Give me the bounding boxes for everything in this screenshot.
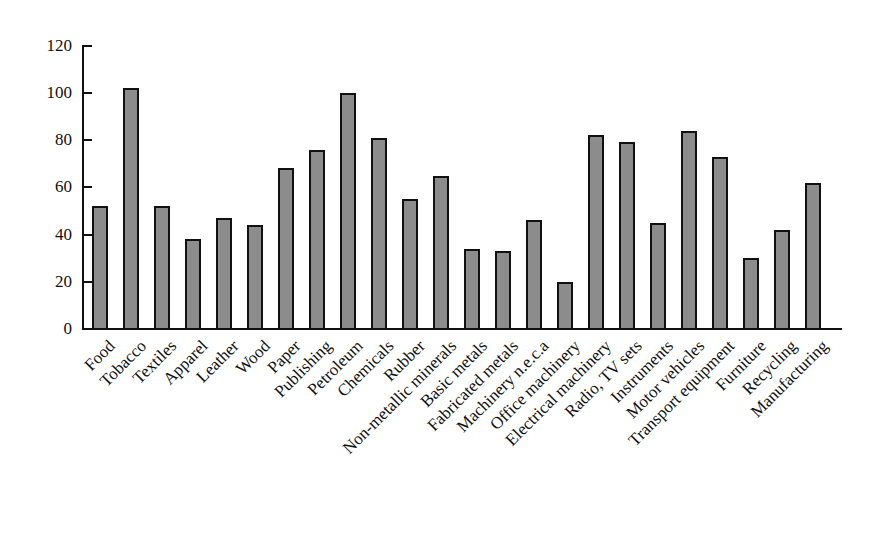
bar-tobacco	[123, 88, 139, 330]
bar-food	[92, 206, 108, 330]
bar-petroleum	[340, 93, 356, 330]
bar-leather	[216, 218, 232, 330]
bar-chart: 020406080100120 FoodTobaccoTextilesAppar…	[0, 0, 879, 554]
y-tick-mark	[82, 45, 92, 47]
y-tick-mark	[82, 328, 92, 330]
bar-furniture	[743, 258, 759, 330]
bar-basic-metals	[464, 249, 480, 330]
bar-office-machinery	[557, 282, 573, 330]
y-tick-label: 40	[32, 226, 72, 243]
y-tick-label: 80	[32, 131, 72, 148]
y-tick-label: 0	[32, 320, 72, 337]
y-tick-label: 60	[32, 178, 72, 195]
y-tick-label: 20	[32, 273, 72, 290]
y-tick-mark	[82, 281, 92, 283]
bar-wood	[247, 225, 263, 330]
y-tick-label: 120	[32, 37, 72, 54]
bar-machinery-n-e-c-a	[526, 220, 542, 330]
bar-recycling	[774, 230, 790, 330]
y-tick-mark	[82, 186, 92, 188]
x-tick-label: Wood	[233, 337, 273, 377]
y-tick-mark	[82, 139, 92, 141]
bar-motor-vehicles	[681, 131, 697, 330]
bar-paper	[278, 168, 294, 330]
bar-manufacturing	[805, 183, 821, 330]
bar-instruments	[650, 223, 666, 330]
bar-apparel	[185, 239, 201, 330]
bar-publishing	[309, 150, 325, 330]
bar-fabricated-metals	[495, 251, 511, 330]
bar-radio-tv-sets	[619, 142, 635, 330]
y-tick-label: 100	[32, 84, 72, 101]
bar-non-metallic-minerals	[433, 176, 449, 330]
y-tick-mark	[82, 92, 92, 94]
bar-transport-equipment	[712, 157, 728, 330]
bar-chemicals	[371, 138, 387, 330]
y-tick-mark	[82, 234, 92, 236]
bar-rubber	[402, 199, 418, 330]
bar-textiles	[154, 206, 170, 330]
bar-electrical-machinery	[588, 135, 604, 330]
